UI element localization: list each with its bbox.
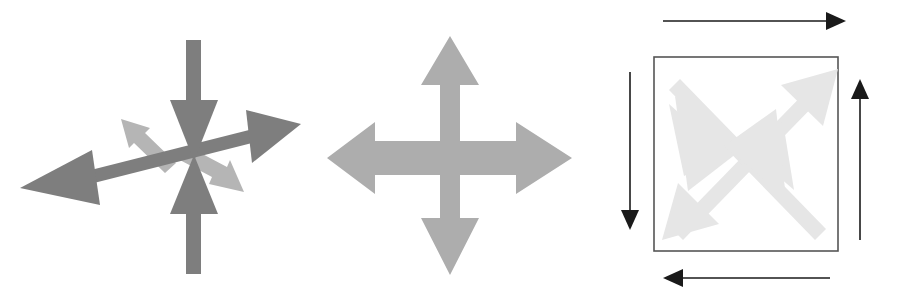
figure-four-way-cross xyxy=(320,0,600,299)
converging-arrows-svg xyxy=(0,0,320,299)
arrow-horizontal-outward-icon xyxy=(20,110,301,205)
border-arrow-top-icon xyxy=(663,12,846,30)
figure-boxed-diagonal-arrows xyxy=(600,0,903,299)
border-arrow-right-icon xyxy=(851,79,869,240)
boxed-diagonal-arrows-svg xyxy=(600,0,903,299)
border-arrow-left-icon xyxy=(621,72,639,230)
diagram-canvas xyxy=(0,0,903,299)
border-arrow-bottom-icon xyxy=(663,269,830,287)
figure-converging-arrows xyxy=(0,0,320,299)
four-way-cross-svg xyxy=(320,0,600,299)
four-way-arrow-icon xyxy=(327,36,572,275)
